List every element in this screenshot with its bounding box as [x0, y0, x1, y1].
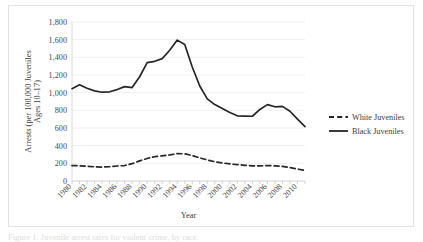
data-series-group: [72, 40, 305, 170]
y-tick-label: 1,400: [49, 53, 67, 62]
y-axis-title-text: Arrests (per 100,000 Juveniles: [24, 50, 33, 152]
axis-line-group: [72, 22, 305, 181]
y-axis-title: Arrests (per 100,000 JuvenilesAges 10–17…: [24, 50, 42, 152]
x-tick-label: 1980: [55, 182, 73, 200]
x-tick-label: 1984: [86, 182, 104, 200]
series-line-white-juveniles: [72, 154, 305, 171]
x-tick-label: 2004: [236, 182, 254, 200]
x-tick-label: 1992: [146, 182, 164, 200]
x-axis-title: Year: [181, 211, 197, 220]
y-tick-label: 400: [55, 142, 67, 151]
figure-container: 02004006008001,0001,2001,4001,6001,800 1…: [0, 0, 423, 242]
y-tick-label: 1,800: [49, 18, 67, 27]
legend-label-black-juveniles: Black Juveniles: [352, 127, 404, 136]
chart-legend: White JuvenilesBlack Juveniles: [329, 113, 405, 136]
y-tick-label: 1,600: [49, 36, 67, 45]
y-tick-label: 800: [55, 106, 67, 115]
chart-frame: 02004006008001,0001,2001,4001,6001,800 1…: [8, 5, 414, 227]
x-tick-label: 1990: [131, 182, 149, 200]
x-tick-label: 1986: [101, 182, 119, 200]
x-tick-label: 1996: [176, 182, 194, 200]
y-axis-tick-labels: 02004006008001,0001,2001,4001,6001,800: [49, 18, 67, 186]
line-chart: 02004006008001,0001,2001,4001,6001,800 1…: [9, 6, 413, 226]
x-tick-label: 2010: [281, 182, 299, 200]
x-tick-label: 2000: [206, 182, 224, 200]
legend-label-white-juveniles: White Juveniles: [352, 113, 405, 122]
x-tick-label: 1988: [116, 182, 134, 200]
x-tick-label: 2002: [221, 182, 239, 200]
x-tick-label: 1994: [161, 182, 179, 200]
x-tick-label: 2006: [251, 182, 269, 200]
x-tick-label: 1998: [191, 182, 209, 200]
x-tick-label: 2008: [266, 182, 284, 200]
y-tick-label: 1,200: [49, 71, 67, 80]
y-tick-label: 600: [55, 124, 67, 133]
x-axis-tick-labels: 1980198219841986198819901992199419961998…: [55, 182, 298, 200]
y-tick-label: 200: [55, 159, 67, 168]
gridline-group: [72, 22, 305, 181]
y-axis-title-text: Ages 10–17): [33, 80, 42, 123]
y-tick-label: 1,000: [49, 89, 67, 98]
figure-caption-strip: Figure 1. Juvenile arrest rates for viol…: [8, 232, 414, 242]
figure-caption: Figure 1. Juvenile arrest rates for viol…: [8, 232, 414, 242]
x-axis-title-text: Year: [181, 211, 197, 220]
series-line-black-juveniles: [72, 40, 305, 127]
x-tick-label: 1982: [71, 182, 89, 200]
